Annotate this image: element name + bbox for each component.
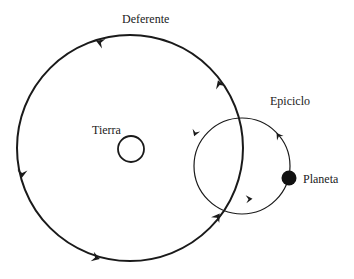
epicycle-arrow-left [190, 129, 200, 138]
deferent-circle [17, 35, 243, 261]
earth-circle [118, 136, 144, 162]
planet-dot [282, 171, 297, 186]
epicycle-arrow-bottom [246, 195, 253, 204]
planet-label: Planeta [303, 173, 338, 185]
deferent-label: Deferente [122, 13, 169, 25]
epicycle-diagram [0, 0, 354, 279]
earth-label: Tierra [92, 124, 121, 136]
deferent-arrow-left [17, 170, 28, 179]
epicycle-label: Epiciclo [270, 95, 310, 107]
